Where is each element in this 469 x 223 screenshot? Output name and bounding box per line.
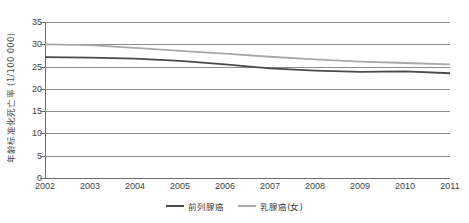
x-tick-label: 2008 xyxy=(305,182,325,191)
y-tick-mark xyxy=(40,22,45,23)
x-tick-label: 2002 xyxy=(35,182,55,191)
y-tick-mark xyxy=(40,133,45,134)
y-tick-mark xyxy=(40,67,45,68)
x-axis-tick-labels: 2002200320042005200620072008200920102011 xyxy=(0,182,469,196)
chart-legend: 前列腺癌乳腺癌(女) xyxy=(0,200,469,212)
y-tick-mark xyxy=(40,44,45,45)
legend-item-1[interactable]: 前列腺癌 xyxy=(166,200,224,212)
series-layer xyxy=(45,22,450,178)
line-chart: 年龄标准化死亡率 (1/100 000) 05101520253035 2002… xyxy=(0,0,469,223)
y-tick-mark xyxy=(40,156,45,157)
legend-label: 前列腺癌 xyxy=(188,200,224,212)
legend-label: 乳腺癌(女) xyxy=(260,200,303,212)
y-tick-mark xyxy=(40,178,45,179)
x-tick-label: 2009 xyxy=(350,182,370,191)
y-axis-title-text: 年龄标准化死亡率 (1/100 000) xyxy=(4,33,16,164)
x-tick-label: 2004 xyxy=(125,182,145,191)
y-tick-label: 30 xyxy=(20,40,42,49)
series-line-1 xyxy=(45,57,450,73)
y-tick-label: 25 xyxy=(20,63,42,72)
x-tick-label: 2006 xyxy=(215,182,235,191)
series-line-2 xyxy=(45,44,450,64)
y-axis-title: 年龄标准化死亡率 (1/100 000) xyxy=(2,18,18,178)
legend-swatch-icon xyxy=(166,205,184,207)
y-tick-mark xyxy=(40,89,45,90)
y-tick-label: 15 xyxy=(20,107,42,116)
x-tick-label: 2007 xyxy=(260,182,280,191)
x-tick-label: 2010 xyxy=(395,182,415,191)
gridline xyxy=(45,178,450,179)
x-tick-label: 2005 xyxy=(170,182,190,191)
legend-swatch-icon xyxy=(238,205,256,207)
y-tick-mark xyxy=(40,111,45,112)
y-tick-label: 35 xyxy=(20,18,42,27)
legend-item-2[interactable]: 乳腺癌(女) xyxy=(238,200,303,212)
y-tick-label: 10 xyxy=(20,129,42,138)
y-tick-label: 20 xyxy=(20,85,42,94)
y-tick-label: 5 xyxy=(20,152,42,161)
x-tick-label: 2003 xyxy=(80,182,100,191)
x-tick-label: 2011 xyxy=(440,182,459,191)
